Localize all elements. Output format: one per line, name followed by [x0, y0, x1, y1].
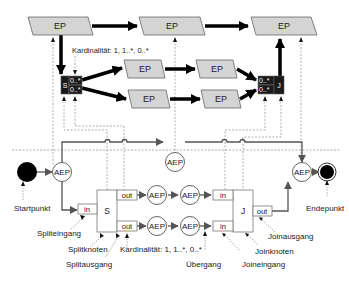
split-out-port-1[interactable]: out: [117, 190, 137, 200]
aep-branch1-1[interactable]: AEP: [148, 186, 167, 205]
ep-node-branch1-2[interactable]: EP: [196, 60, 237, 78]
label-spliteingang: Spliteingang: [37, 229, 81, 238]
svg-text:0..*: 0..*: [259, 77, 270, 84]
svg-text:out: out: [257, 207, 268, 216]
start-point-node[interactable]: [17, 162, 37, 182]
aep-top[interactable]: AEP: [166, 153, 185, 172]
svg-text:0..*: 0..*: [259, 86, 270, 93]
svg-text:in: in: [220, 222, 226, 231]
svg-text:J: J: [277, 82, 281, 89]
svg-text:EP: EP: [166, 21, 178, 31]
svg-text:AEP: AEP: [182, 222, 198, 231]
svg-text:out: out: [122, 222, 133, 231]
label-endepunkt: Endepunkt: [306, 204, 345, 213]
svg-text:EP: EP: [139, 64, 151, 74]
svg-text:EP: EP: [215, 94, 227, 104]
aep-branch2-1[interactable]: AEP: [148, 217, 167, 236]
upper-cardinality-label: Kardinalität: 1, 1..*, 0..*: [72, 46, 149, 55]
svg-text:J: J: [241, 206, 245, 216]
label-kardinalitaet: Kardinalität: 1, 1..*, 0..*: [120, 245, 202, 254]
svg-text:in: in: [220, 191, 226, 200]
upper-thick-flows: [61, 26, 280, 99]
svg-text:AEP: AEP: [149, 222, 165, 231]
svg-text:S: S: [63, 82, 68, 89]
label-joineingang: Joineingang: [242, 260, 285, 269]
svg-text:AEP: AEP: [149, 191, 165, 200]
svg-text:EP: EP: [143, 94, 155, 104]
svg-text:AEP: AEP: [167, 158, 183, 167]
join-in-port-1[interactable]: in: [213, 190, 233, 200]
ep-node-branch2-1[interactable]: EP: [128, 90, 170, 108]
svg-text:EP: EP: [54, 21, 66, 31]
split-out-port-2[interactable]: out: [117, 221, 137, 231]
svg-text:0..*: 0..*: [70, 86, 81, 93]
svg-text:S: S: [104, 206, 110, 216]
lower-split-node[interactable]: S: [97, 190, 117, 232]
aep-branch2-2[interactable]: AEP: [181, 217, 200, 236]
split-in-port[interactable]: in: [78, 204, 97, 214]
svg-text:AEP: AEP: [294, 168, 310, 177]
label-uebergang: Übergang: [186, 260, 221, 269]
label-splitknoten: Splitknoten: [68, 245, 108, 254]
lower-join-node[interactable]: J: [233, 190, 253, 232]
label-startpunkt: Startpunkt: [14, 204, 51, 213]
svg-text:in: in: [84, 205, 90, 214]
ep-node-top-2[interactable]: EP: [139, 17, 205, 35]
label-splitausgang: Splitausgang: [66, 260, 112, 269]
upper-split-node[interactable]: S 0..* 0..*: [61, 76, 82, 94]
ep-node-top-3[interactable]: EP: [251, 17, 317, 35]
join-in-port-2[interactable]: in: [213, 221, 233, 231]
aep-start[interactable]: AEP: [53, 163, 72, 182]
label-joinknoten: Joinknoten: [255, 247, 294, 256]
svg-text:AEP: AEP: [54, 168, 70, 177]
ep-node-branch2-2[interactable]: EP: [201, 90, 241, 108]
join-out-port[interactable]: out: [253, 206, 272, 216]
aep-branch1-2[interactable]: AEP: [181, 186, 200, 205]
aep-end[interactable]: AEP: [293, 163, 312, 182]
svg-text:AEP: AEP: [182, 191, 198, 200]
ep-node-branch1-1[interactable]: EP: [124, 60, 165, 78]
end-point-node[interactable]: [318, 163, 336, 181]
svg-text:0..*: 0..*: [70, 77, 81, 84]
upper-join-node[interactable]: 0..* 0..* J: [258, 76, 284, 94]
svg-text:EP: EP: [211, 64, 223, 74]
svg-text:EP: EP: [278, 21, 290, 31]
svg-text:out: out: [122, 191, 133, 200]
process-diagram: EP EP EP EP EP EP EP S 0..* 0..*: [0, 0, 349, 285]
ep-node-top-1[interactable]: EP: [28, 17, 93, 35]
label-joinausgang: Joinausgang: [268, 232, 313, 241]
